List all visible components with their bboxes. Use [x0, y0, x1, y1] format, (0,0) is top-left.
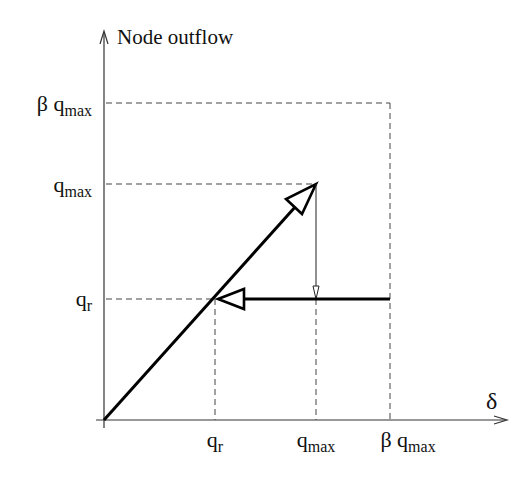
x-tick-beta-qmax: β qmax [380, 427, 435, 455]
drop-small-arrowhead-icon [313, 286, 319, 299]
x-tick-qr: qr [207, 427, 224, 455]
horizontal-open-arrowhead-icon [218, 289, 244, 309]
node-outflow-diagram: Node outflow δ β qmax qmax qr qr qmax β … [0, 0, 532, 478]
y-tick-beta-qmax: β qmax [37, 91, 92, 119]
x-tick-qmax: qmax [297, 427, 336, 455]
diagonal-open-arrowhead-icon [286, 184, 316, 214]
y-tick-qr: qr [76, 286, 93, 314]
y-axis-label: Node outflow [117, 25, 234, 49]
diagonal-outflow-line [104, 206, 296, 420]
x-axis-label: δ [486, 388, 497, 414]
y-tick-qmax: qmax [53, 172, 92, 200]
